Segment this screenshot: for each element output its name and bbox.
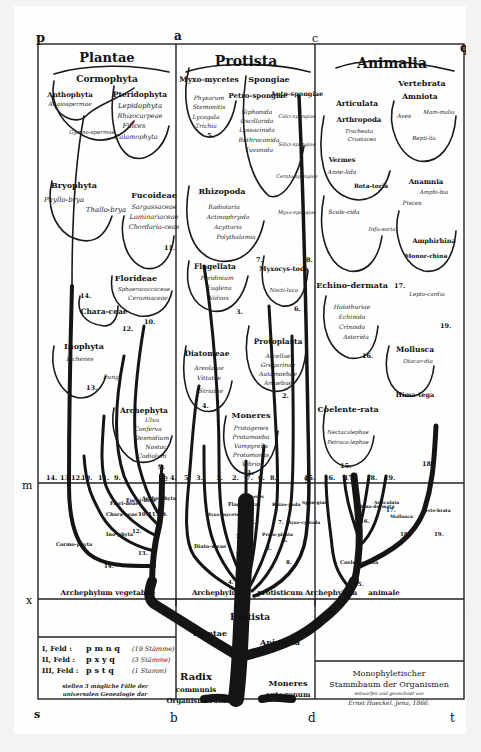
label-archephyta: Archephyta [119,406,168,415]
number-6: 6. [294,305,301,313]
archephylum-animale-a: Archephylum [304,588,358,597]
number-13: 13. [86,384,97,392]
lower-cormophyta: Cormo-phyta [56,541,93,548]
label-rhizocarpeae: Rhizocarpeae [117,112,163,120]
number-19: 19. [440,322,451,330]
corner-a: a [174,29,182,43]
label-lichenes: Lichenes [65,355,93,362]
label-laminariaceae: Laminariaceae [129,213,179,221]
legend-field-2: II, Feld : [42,655,75,664]
corner-p: p [36,30,45,45]
lower-num-19: 19. [434,531,444,537]
lower-flagellata: Flagel-lata [228,501,259,508]
label-actinophryida: Actinophryida [206,213,250,221]
mn-number-6: 6. [258,474,265,482]
lower-coelenterata: Coelente-rata [340,559,379,565]
label-physarum: Physarum [193,94,225,102]
label-tuvonida: Tuvonida [245,146,273,153]
number-5: 5. [207,131,214,140]
haeckel-tree-diagram: p a c q m n x y s b d t e g [14,6,466,734]
label-anthophyta: Anthophyta [46,90,93,99]
label-otocardia: Otocar-dia [403,358,432,364]
number-16: 16. [362,352,373,360]
label-filices: Filices [121,122,146,130]
label-calcispongiae: Calci-spongiae [278,113,315,120]
label-articulata: Articulata [335,99,378,108]
kingdom-plantae: Plantae [79,50,134,65]
mn-number-11: 11. [98,474,109,482]
label-bryophyta: Bryophyta [51,180,97,190]
title-line-4: Ernst Haeckel. Jena, 1866. [347,699,430,707]
label-stemonitis: Stemonitis [193,103,226,110]
title-line-2: Stammbaum der Organismen [329,680,449,689]
label-amphibia: Amphi-bia [419,189,448,196]
label-radiolaria: Radiolaria [207,203,240,210]
lower-spongiae: Spon-giae [302,500,327,505]
lower-archephyta: Arche-phyta [141,495,177,502]
label-desmidium: Desmidium [134,434,170,441]
label-protomonas: Protomonas [232,451,269,458]
number-10: 10. [144,318,155,326]
label-vermes: Vermes [328,156,356,164]
label-moneres: Moneres [232,410,271,420]
plantae-brace [54,66,169,74]
mn-number-7: 7. [246,474,253,482]
lower-mollusca: Mollusca [390,514,413,519]
label-trichia: Trichia [195,122,217,129]
label-lepidophyta: Lepidophyta [117,102,162,110]
label-holothuriae: Holothuriae [333,303,371,310]
corner-q: q [460,41,466,55]
label-fucoideae: Fucoideae [131,190,177,200]
lower-num-4: 4. [228,579,234,585]
lower-diatomeae: Diato-meae [194,543,226,549]
label-areolatae: Areolatae [193,364,224,371]
legend-letters-3: p s t q [86,665,114,675]
myxocystoda-outline [262,256,308,306]
number-15: 15. [340,462,351,470]
label-protogenes: Protogenes [233,424,268,432]
corner-t: t [450,711,455,725]
lower-num-7: 7. [278,519,284,525]
label-nostoc: Nostoc [144,443,167,450]
label-gymnospermae: Gymno-spermae [69,129,115,136]
root-communis: communis [176,685,217,694]
label-sphaerococcaceae: Sphaerococcaceae [118,286,171,293]
mn-number-15: 15. [304,474,315,482]
label-coelenterata: Coelente-rata [317,404,378,414]
corner-c: c [312,32,318,45]
label-acyttaria: Acyttaria [213,223,242,231]
corner-x: x [26,594,33,607]
label-pteridophyta: Pteridophyta [113,90,167,99]
lower-moneres: Moneres [242,494,264,499]
lower-num-5: 5. [236,551,242,557]
label-flagellata: Flagellata [194,262,236,271]
label-sargassaceae: Sargassaceae [131,203,176,211]
label-spongiae: Spongiae [248,74,289,84]
label-euglena: Euglena [206,284,232,292]
lower-myxocystoda: Myxo-cystoda [286,520,320,525]
root-moneres: Moneres [269,678,308,688]
label-lyssacinida: Lyssacinida [238,126,275,134]
label-phyllobrya: Phyllo-brya [43,196,84,204]
number-12: 12. [122,325,133,333]
label-protoplasta: Protoplasta [254,337,303,346]
label-crinoida: Crinoida [339,323,366,330]
legend-field-3: III, Feld : [42,666,78,675]
lower-myxomycetes: Myxo-mycetes [206,512,242,517]
coelenterata-branch [326,476,352,591]
corner-y: y [465,600,466,613]
kingdom-protista: Protista [215,53,277,69]
mn-number-17: 17. [344,474,355,482]
lower-num-8: 8. [286,559,292,565]
label-scolecida: Scole-cida [328,208,360,215]
legend-count-2: (3 Stämme) [132,656,171,664]
label-anamnia: Anamnia [408,177,444,186]
inophyta-outline [53,346,106,398]
label-aves: Aves [396,112,411,119]
label-ceratospongiae: Cerato-spongiae [276,173,318,180]
label-crustacea: Crustacea [348,136,376,142]
lower-num-2: 2. [266,545,272,551]
label-infusoria: Infu-soria [368,226,396,233]
number-2: 2. [282,392,289,400]
lower-num-9: 9. [162,511,168,517]
